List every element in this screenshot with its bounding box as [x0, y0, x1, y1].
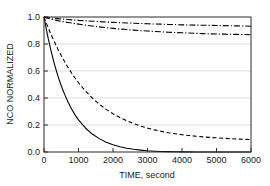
x-axis-title: TIME, second: [119, 170, 175, 180]
chart-svg: 0100020003000400050006000 0.00.20.40.60.…: [0, 0, 270, 186]
y-tick-label-2: 0.4: [27, 93, 40, 103]
x-tick-label-6: 6000: [241, 155, 261, 165]
y-tick-label-5: 1.0: [27, 12, 40, 22]
y-tick-label-1: 0.2: [27, 120, 40, 130]
chart-figure: 0100020003000400050006000 0.00.20.40.60.…: [0, 0, 270, 186]
y-tick-label-3: 0.6: [27, 66, 40, 76]
y-tick-label-4: 0.8: [27, 39, 40, 49]
x-tick-label-1: 1000: [68, 155, 88, 165]
x-tick-label-0: 0: [41, 155, 46, 165]
y-tick-label-0: 0.0: [27, 147, 40, 157]
x-tick-label-3: 3000: [137, 155, 157, 165]
y-axis-title: NCO NORMALIZED: [5, 43, 15, 125]
x-tick-label-5: 5000: [206, 155, 226, 165]
x-tick-label-4: 4000: [172, 155, 192, 165]
x-tick-label-2: 2000: [103, 155, 123, 165]
